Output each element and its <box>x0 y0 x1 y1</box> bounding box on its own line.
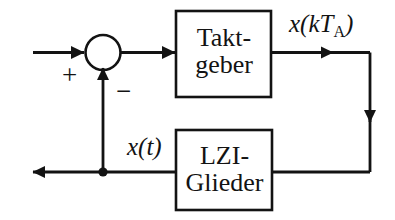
summing-junction-circle <box>86 35 121 70</box>
sampled-signal-label: x(kTA) <box>289 11 353 40</box>
takt-geber-label: Takt- geber <box>176 24 272 79</box>
block-diagram-canvas: Takt- geber LZI- Glieder x(kTA) x(t) + − <box>0 0 395 220</box>
sum-minus-sign: − <box>116 78 131 105</box>
takt-geber-label-line1: Takt- <box>176 24 272 51</box>
sampled-signal-subscript: A <box>333 23 345 40</box>
sampled-signal-paren: ) <box>345 10 353 37</box>
lzi-glieder-label-line2: Glieder <box>176 169 273 196</box>
lzi-glieder-label-line1: LZI- <box>176 142 273 169</box>
lzi-glieder-label: LZI- Glieder <box>176 142 273 197</box>
sum-plus-sign: + <box>62 62 77 89</box>
takt-geber-label-line2: geber <box>176 51 272 78</box>
continuous-signal-label: x(t) <box>127 134 162 159</box>
sampled-signal-main: x(kT <box>289 10 333 37</box>
